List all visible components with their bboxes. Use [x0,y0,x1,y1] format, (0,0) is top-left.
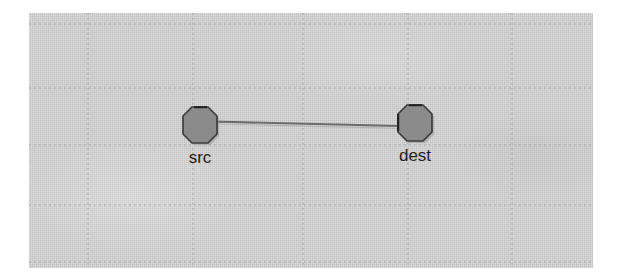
node-dest[interactable]: dest [395,102,435,144]
diagram-editor: src dest [0,0,617,279]
octagon-icon [395,102,435,144]
node-src-label: src [189,149,212,166]
edge-src-dest[interactable] [190,121,399,126]
graph-canvas[interactable]: src dest [29,13,593,268]
node-src[interactable]: src [180,104,220,146]
node-dest-label: dest [399,147,431,164]
edge-layer [29,13,593,268]
octagon-icon [180,104,220,146]
